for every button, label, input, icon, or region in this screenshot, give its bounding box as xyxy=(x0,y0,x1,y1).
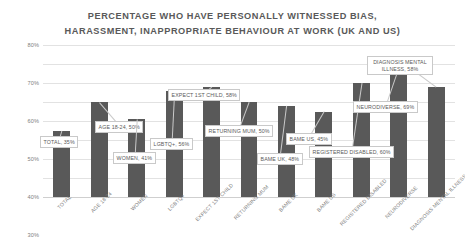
bar-slot xyxy=(230,45,267,197)
x-axis-label-slot: REGISTERED DISABLED xyxy=(343,198,380,250)
x-axis-label-slot: BAME UK xyxy=(268,198,305,250)
chart-title-line-1: PERCENTAGE WHO HAVE PERSONALLY WITNESSED… xyxy=(0,9,465,24)
bar-slot xyxy=(193,45,230,197)
x-axis-labels: TOTALAGE 18-24WOMENLGBTQ+EXPECT 1ST CHIL… xyxy=(43,198,455,250)
x-axis-label-slot: LGBTQ+ xyxy=(155,198,192,250)
bar-slot xyxy=(268,45,305,197)
x-axis-label-slot: BAME US xyxy=(305,198,342,250)
data-label: RETURNING MUM, 50% xyxy=(205,125,273,137)
bar[interactable] xyxy=(203,87,220,197)
data-label: WOMEN, 41% xyxy=(113,152,156,164)
x-axis-label-slot: DIAGNOSIS MENTAL ILLNESS xyxy=(418,198,455,250)
data-label: EXPECT 1ST CHILD, 58% xyxy=(168,89,240,101)
bar-chart: PERCENTAGE WHO HAVE PERSONALLY WITNESSED… xyxy=(0,0,465,252)
x-axis-label-slot: RETURNING MUM xyxy=(230,198,267,250)
data-label: NEURODIVERSE, 69% xyxy=(353,101,418,113)
data-label: REGISTERED DISABLED, 60% xyxy=(309,146,394,158)
bar-slot xyxy=(43,45,80,197)
x-axis-label-slot: WOMEN xyxy=(118,198,155,250)
y-axis-tick-label: 60% xyxy=(28,118,40,124)
y-axis-tick-label: 40% xyxy=(28,194,40,200)
plot-area: 0%10%20%30%40%50%60%70%80% TOTAL, 35%AGE… xyxy=(43,45,455,197)
x-axis-label-slot: AGE 18-24 xyxy=(80,198,117,250)
x-axis-label-slot: EXPECT 1ST CHILD xyxy=(193,198,230,250)
y-axis-tick-label: 70% xyxy=(28,80,40,86)
y-axis-tick-label: 80% xyxy=(28,42,40,48)
bar-slot xyxy=(305,45,342,197)
x-axis-label-slot: TOTAL xyxy=(43,198,80,250)
bar-slot xyxy=(155,45,192,197)
data-label: DIAGNOSIS MENTAL ILLNESS, 58% xyxy=(367,56,433,75)
data-label: BAME UK, 48% xyxy=(257,153,303,165)
chart-title-line-2: HARASSMENT, INAPPROPRIATE BEHAVIOUR AT W… xyxy=(0,24,465,39)
bar[interactable] xyxy=(91,102,108,197)
data-label: LGBTQ+, 56% xyxy=(150,138,193,150)
y-axis-tick-label: 50% xyxy=(28,156,40,162)
data-label: TOTAL, 35% xyxy=(40,136,78,148)
y-axis-tick-label: 30% xyxy=(28,232,40,238)
chart-title: PERCENTAGE WHO HAVE PERSONALLY WITNESSED… xyxy=(0,9,465,39)
data-label: BAME US, 45% xyxy=(286,133,332,145)
bar[interactable] xyxy=(428,87,445,197)
